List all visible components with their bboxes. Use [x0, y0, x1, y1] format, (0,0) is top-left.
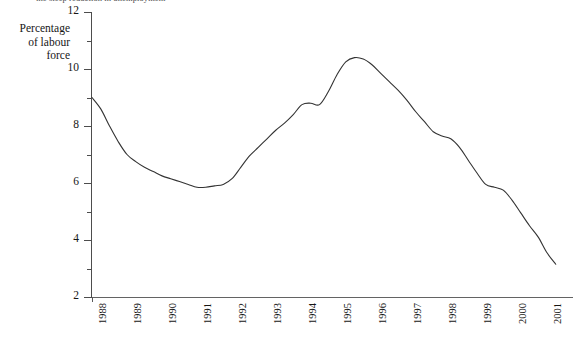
- plot-area: [0, 0, 573, 342]
- series-line-unemployment: [92, 57, 556, 264]
- unemployment-line-chart: the steep reduction in unemployment Unem…: [0, 0, 573, 342]
